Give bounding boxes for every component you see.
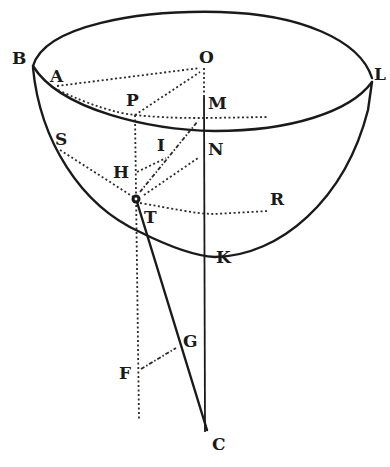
line-a-o bbox=[57, 68, 200, 86]
label-i: I bbox=[157, 135, 165, 155]
label-c: C bbox=[212, 434, 226, 454]
hemisphere-diagram: B O L A P M S I N H T R K G F C bbox=[0, 0, 390, 467]
line-f-g bbox=[141, 348, 176, 369]
label-f: F bbox=[119, 363, 131, 383]
label-m: M bbox=[208, 93, 227, 113]
label-g: G bbox=[183, 331, 198, 351]
line-t-c bbox=[137, 202, 207, 430]
line-p-o bbox=[135, 72, 200, 115]
label-l: L bbox=[374, 64, 386, 84]
label-s: S bbox=[55, 129, 67, 149]
label-p: P bbox=[126, 90, 139, 110]
rim-front-arc bbox=[33, 66, 372, 131]
line-m-right bbox=[206, 117, 268, 118]
axis-m-c bbox=[204, 96, 205, 432]
label-r: R bbox=[270, 189, 285, 209]
label-o: O bbox=[199, 47, 214, 67]
label-a: A bbox=[49, 66, 64, 86]
label-n: N bbox=[208, 139, 224, 159]
label-h: H bbox=[113, 162, 129, 182]
line-t-m bbox=[140, 121, 198, 192]
label-t: T bbox=[144, 207, 157, 227]
point-t-marker-center bbox=[135, 198, 138, 201]
label-k: K bbox=[216, 247, 232, 267]
bowl-outline bbox=[33, 68, 372, 257]
rim-back-arc bbox=[33, 12, 372, 78]
line-p-vertical bbox=[135, 115, 139, 420]
label-b: B bbox=[12, 48, 26, 68]
